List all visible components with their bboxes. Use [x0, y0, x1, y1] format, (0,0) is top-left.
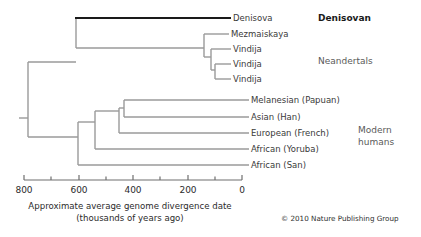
axis-tick-label-600: 600: [65, 186, 93, 195]
axis-caption-line1: Approximate average genome divergence da…: [0, 201, 260, 212]
group-label-modern-humans-line2: humans: [358, 137, 394, 148]
tree-branches: [19, 18, 249, 165]
leaf-label-melanesian: Melanesian (Papuan): [251, 96, 340, 105]
leaf-label-asian: Asian (Han): [251, 113, 301, 122]
group-label-denisovan: Denisovan: [318, 13, 371, 24]
leaf-label-african-san: African (San): [251, 161, 306, 170]
leaf-label-mezmaiskaya: Mezmaiskaya: [231, 30, 289, 39]
phylogenetic-tree-figure: Denisova Mezmaiskaya Vindija Vindija Vin…: [0, 0, 421, 237]
axis-tick-label-200: 200: [174, 186, 202, 195]
group-label-neandertals: Neandertals: [318, 56, 373, 67]
leaf-label-vindija-2: Vindija: [233, 60, 262, 69]
group-label-modern-humans-line1: Modern: [358, 125, 392, 136]
copyright-notice: © 2010 Nature Publishing Group: [281, 214, 399, 223]
axis-tick-label-800: 800: [10, 186, 38, 195]
leaf-label-vindija-3: Vindija: [233, 75, 262, 84]
leaf-label-european: European (French): [251, 129, 329, 138]
leaf-label-african-yoruba: African (Yoruba): [251, 145, 319, 154]
axis-caption-line2: (thousands of years ago): [0, 213, 260, 224]
x-axis: [24, 175, 242, 180]
leaf-label-denisova: Denisova: [233, 14, 272, 23]
axis-tick-label-400: 400: [119, 186, 147, 195]
axis-tick-label-0: 0: [233, 186, 251, 195]
leaf-label-vindija-1: Vindija: [233, 45, 262, 54]
